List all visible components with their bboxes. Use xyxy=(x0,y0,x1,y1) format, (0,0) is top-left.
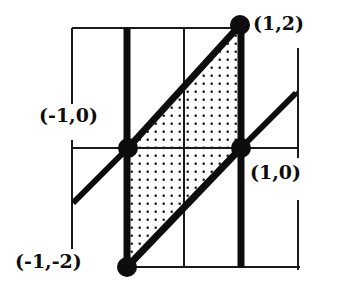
point-label-neg1-0: (-1,0) xyxy=(39,106,98,125)
diagonal-extension-lower-left xyxy=(73,148,128,203)
geometry-figure: (1,2) (-1,0) (1,0) (-1,-2) xyxy=(0,0,345,293)
vertex-dot-neg1-neg2 xyxy=(117,257,137,277)
diagonal-extension-upper-right xyxy=(241,93,296,148)
point-label-1-0: (1,0) xyxy=(250,163,301,182)
point-label-neg1-neg2: (-1,-2) xyxy=(15,252,82,271)
grid-lines xyxy=(72,28,300,270)
point-label-1-2: (1,2) xyxy=(253,14,304,33)
vertex-dot-1-0 xyxy=(231,138,251,158)
vertex-dot-1-2 xyxy=(230,15,250,35)
vertex-dot-neg1-0 xyxy=(118,138,138,158)
